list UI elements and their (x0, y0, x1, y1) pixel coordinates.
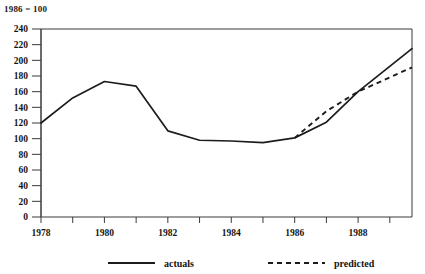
chart-container: y 1986 = 100 020406080100120140160180200… (0, 0, 425, 274)
y-tick-label: 240 (14, 24, 29, 34)
y-tick-label: 140 (14, 103, 29, 113)
index-base-note: 1986 = 100 (4, 4, 47, 15)
x-tick-label: 1988 (349, 228, 368, 238)
plot-frame (41, 29, 412, 217)
y-tick-label: 200 (14, 56, 29, 66)
x-axis-ticks: 197819801982198419861988 (32, 217, 390, 238)
y-tick-label: 20 (19, 197, 29, 207)
y-tick-label: 0 (23, 212, 28, 222)
y-tick-label: 100 (14, 134, 29, 144)
chart-legend: actualspredicted (108, 258, 375, 269)
y-tick-label: 160 (14, 87, 29, 97)
line-chart-svg: 020406080100120140160180200220240 197819… (0, 0, 425, 274)
y-tick-label: 120 (14, 118, 29, 128)
series-line-predicted (295, 67, 412, 138)
legend-label-actuals: actuals (164, 258, 194, 269)
plot-border (41, 29, 412, 217)
y-axis-ticks: 020406080100120140160180200220240 (14, 24, 41, 222)
x-tick-label: 1978 (32, 228, 51, 238)
y-tick-label: 60 (19, 165, 29, 175)
y-tick-label: 80 (19, 150, 29, 160)
x-tick-label: 1982 (158, 228, 177, 238)
legend-label-predicted: predicted (334, 258, 375, 269)
y-tick-label: 40 (19, 181, 29, 191)
y-tick-label: 220 (14, 40, 29, 50)
x-tick-label: 1984 (222, 228, 241, 238)
x-tick-label: 1986 (285, 228, 304, 238)
data-series-group (41, 49, 412, 143)
y-tick-label: 180 (14, 71, 29, 81)
series-line-actuals (41, 49, 412, 143)
x-tick-label: 1980 (95, 228, 114, 238)
